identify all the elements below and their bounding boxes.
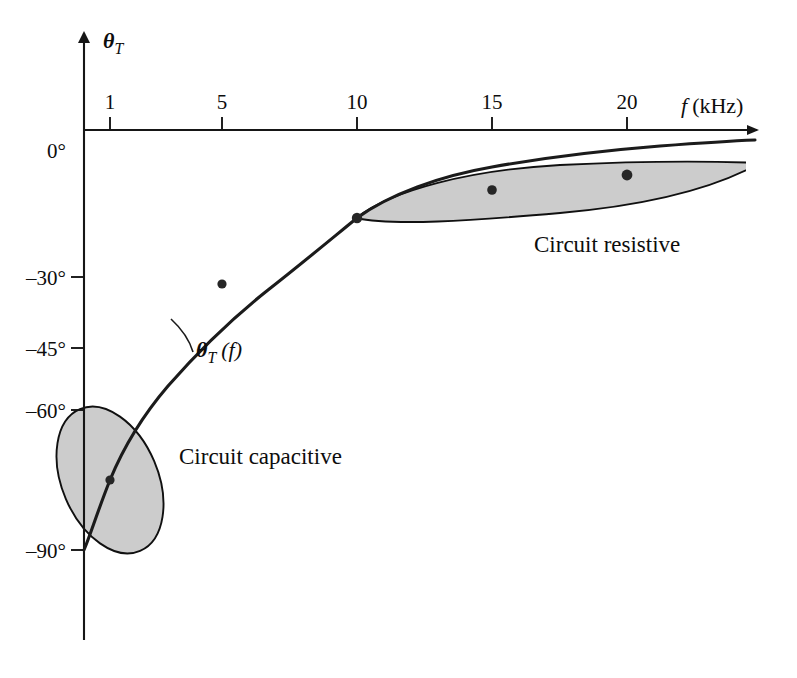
y-tick-label-neg90: –90° xyxy=(25,539,66,563)
data-point-10khz xyxy=(352,213,362,223)
curve-label: θT(f) xyxy=(196,337,242,366)
curve-label-symbol: θ xyxy=(196,337,208,362)
curve-label-leader-line xyxy=(171,319,193,352)
x-tick-label-5: 5 xyxy=(217,90,228,114)
capacitive-region-label: Circuit capacitive xyxy=(179,444,342,469)
y-axis-title: θT xyxy=(103,28,124,57)
data-point-15khz xyxy=(487,185,497,195)
data-point-capacitive xyxy=(105,475,114,484)
x-axis-title: f(kHz) xyxy=(681,93,743,118)
y-tick-label-0: 0° xyxy=(47,139,66,163)
y-tick-label-neg45: –45° xyxy=(25,337,66,361)
svg-text:f(kHz): f(kHz) xyxy=(681,93,743,118)
resistive-region-label: Circuit resistive xyxy=(534,232,680,257)
x-tick-label-20: 20 xyxy=(617,90,638,114)
x-tick-label-15: 15 xyxy=(482,90,503,114)
curve-label-subscript: T xyxy=(207,349,217,366)
curve-label-argument: (f) xyxy=(221,337,242,362)
data-point-5khz xyxy=(217,279,226,288)
chart-canvas: 1 5 10 15 20 0° –30° –45° –60° –90° θT f… xyxy=(0,0,797,678)
x-axis-ticks xyxy=(110,117,627,130)
x-tick-label-10: 10 xyxy=(347,90,368,114)
phase-angle-chart-figure: 1 5 10 15 20 0° –30° –45° –60° –90° θT f… xyxy=(0,0,797,678)
x-tick-label-1: 1 xyxy=(105,90,116,114)
data-point-20khz xyxy=(622,170,633,181)
y-axis-title-symbol: θ xyxy=(103,28,115,53)
y-tick-label-neg60: –60° xyxy=(25,399,66,423)
x-axis-title-symbol: f xyxy=(681,93,690,118)
svg-text:θT: θT xyxy=(103,28,124,57)
resistive-region-ellipse xyxy=(356,162,760,222)
y-tick-label-neg30: –30° xyxy=(25,266,66,290)
y-axis-title-subscript: T xyxy=(114,40,124,57)
y-tick-labels: 0° –30° –45° –60° –90° xyxy=(25,139,66,563)
region-resistive xyxy=(356,162,760,222)
x-tick-labels: 1 5 10 15 20 xyxy=(105,90,638,114)
x-axis-title-unit: (kHz) xyxy=(692,93,743,118)
